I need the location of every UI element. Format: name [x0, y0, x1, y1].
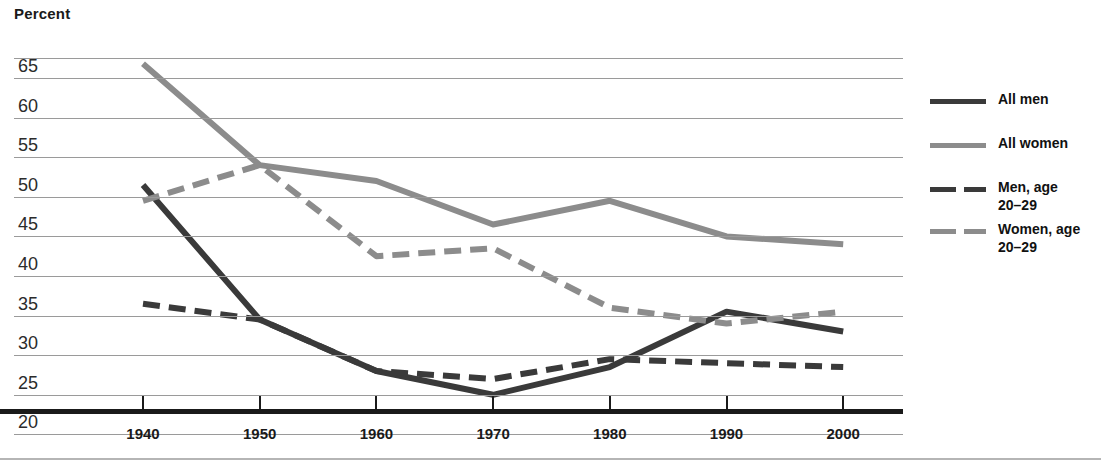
legend-item[interactable]: All women: [930, 139, 1095, 161]
bottom-divider: [0, 458, 1101, 460]
x-tick-label: 1940: [126, 425, 159, 442]
y-tick-label: 40: [18, 255, 38, 273]
x-tick-label: 1980: [593, 425, 626, 442]
x-axis-tick: [492, 396, 494, 409]
y-tick-label: 20: [18, 413, 38, 431]
x-axis-tick: [609, 396, 611, 409]
legend-swatch-icon: [930, 143, 986, 148]
gridline: [14, 395, 903, 396]
legend-swatch-icon: [930, 99, 986, 104]
x-axis-tick: [375, 396, 377, 409]
y-tick-label: 65: [18, 57, 38, 75]
legend-label: Men, age 20–29: [998, 179, 1058, 214]
legend-label: Women, age 20–29: [998, 221, 1080, 256]
chart-container: Percent 65605550454035302520 19401950196…: [0, 0, 1101, 465]
x-tick-label: 1950: [243, 425, 276, 442]
x-axis-line: [0, 409, 903, 414]
legend-item[interactable]: Men, age 20–29: [930, 183, 1095, 205]
gridline: [14, 276, 903, 277]
x-tick-label: 1990: [710, 425, 743, 442]
gridline: [14, 236, 903, 237]
x-axis-tick: [842, 396, 844, 409]
series-line: [143, 64, 843, 245]
x-axis-tick: [259, 396, 261, 409]
legend-item[interactable]: All men: [930, 95, 1095, 117]
y-tick-label: 45: [18, 215, 38, 233]
legend-swatch-icon: [930, 229, 986, 234]
y-tick-label: 55: [18, 136, 38, 154]
gridline: [14, 197, 903, 198]
gridline: [14, 355, 903, 356]
x-axis-tick: [142, 396, 144, 409]
gridline: [14, 316, 903, 317]
y-tick-label: 60: [18, 97, 38, 115]
y-tick-label: 35: [18, 295, 38, 313]
x-tick-label: 1960: [360, 425, 393, 442]
y-tick-label: 50: [18, 176, 38, 194]
gridline: [14, 118, 903, 119]
legend-swatch-icon: [930, 187, 986, 192]
legend-label: All men: [998, 91, 1049, 109]
gridline: [14, 78, 903, 79]
x-axis-tick: [726, 396, 728, 409]
y-tick-label: 25: [18, 374, 38, 392]
chart-legend: All menAll womenMen, age 20–29Women, age…: [930, 95, 1095, 267]
legend-item[interactable]: Women, age 20–29: [930, 225, 1095, 247]
y-tick-label: 30: [18, 334, 38, 352]
x-tick-label: 1970: [476, 425, 509, 442]
gridline-top: [14, 58, 903, 59]
series-line: [143, 165, 843, 323]
gridline: [14, 157, 903, 158]
legend-label: All women: [998, 135, 1068, 153]
x-tick-label: 2000: [827, 425, 860, 442]
